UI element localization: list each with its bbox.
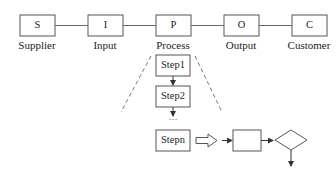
label-input: Input bbox=[75, 39, 135, 51]
expand-line-left bbox=[121, 56, 151, 112]
box-letter: O bbox=[224, 19, 259, 30]
box-letter: P bbox=[156, 19, 191, 30]
box-letter: C bbox=[292, 19, 327, 30]
process-box bbox=[233, 130, 261, 151]
step-label: Step2 bbox=[156, 90, 190, 101]
label-customer: Customer bbox=[279, 39, 336, 51]
box-letter: I bbox=[88, 19, 123, 30]
label-supplier: Supplier bbox=[7, 39, 67, 51]
step-ellipsis: … bbox=[156, 112, 190, 122]
box-letter: S bbox=[20, 19, 55, 30]
step-label: Step1 bbox=[156, 59, 190, 70]
decision-diamond bbox=[275, 130, 307, 150]
label-output: Output bbox=[211, 39, 271, 51]
expand-line-right bbox=[195, 56, 222, 112]
step-label: Stepn bbox=[156, 134, 190, 145]
label-process: Process bbox=[143, 39, 203, 51]
block-arrow-icon bbox=[196, 134, 217, 147]
